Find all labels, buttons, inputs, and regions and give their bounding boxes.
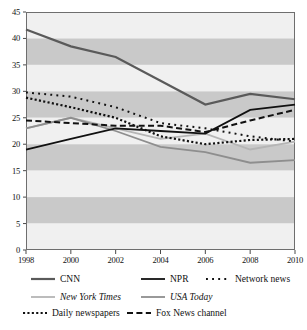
legend-swatch-network-news bbox=[205, 273, 231, 285]
plot-area bbox=[0, 0, 307, 262]
legend-swatch-fox-news-channel bbox=[126, 307, 152, 319]
legend-label-network-news: Network news bbox=[235, 274, 290, 284]
y-tick-label: 45 bbox=[2, 8, 20, 17]
x-tick-label: 2002 bbox=[102, 256, 130, 265]
legend-swatch-npr bbox=[140, 273, 166, 285]
x-tick-marks bbox=[26, 250, 295, 254]
legend-item-network-news[interactable]: Network news bbox=[205, 272, 290, 286]
y-tick-label: 5 bbox=[2, 220, 20, 229]
legend-label-daily-newspapers: Daily newspapers bbox=[52, 308, 120, 318]
y-tick-marks bbox=[23, 12, 26, 250]
legend-item-cnn[interactable]: CNN bbox=[30, 272, 80, 286]
band bbox=[26, 197, 295, 223]
legend-item-usa-today[interactable]: USA Today bbox=[140, 290, 213, 304]
band bbox=[26, 224, 295, 250]
chart-legend: CNNNPRNetwork newsNew York TimesUSA Toda… bbox=[0, 272, 307, 330]
y-tick-label: 25 bbox=[2, 114, 20, 123]
legend-label-fox-news-channel: Fox News channel bbox=[156, 308, 227, 318]
legend-label-cnn: CNN bbox=[60, 274, 80, 284]
band bbox=[26, 12, 295, 38]
legend-swatch-cnn bbox=[30, 273, 56, 285]
x-tick-label: 2000 bbox=[57, 256, 85, 265]
y-tick-label: 20 bbox=[2, 140, 20, 149]
legend-item-new-york-times[interactable]: New York Times bbox=[30, 290, 121, 304]
y-tick-label: 35 bbox=[2, 61, 20, 70]
y-tick-label: 40 bbox=[2, 34, 20, 43]
band bbox=[26, 38, 295, 64]
x-tick-label: 2008 bbox=[236, 256, 264, 265]
x-tick-label: 1998 bbox=[12, 256, 40, 265]
legend-item-fox-news-channel[interactable]: Fox News channel bbox=[126, 306, 227, 320]
y-tick-label: 30 bbox=[2, 87, 20, 96]
legend-label-usa-today: USA Today bbox=[170, 292, 213, 302]
legend-label-new-york-times: New York Times bbox=[60, 292, 121, 302]
legend-item-daily-newspapers[interactable]: Daily newspapers bbox=[22, 306, 120, 320]
legend-swatch-daily-newspapers bbox=[22, 307, 48, 319]
legend-item-npr[interactable]: NPR bbox=[140, 272, 188, 286]
legend-swatch-new-york-times bbox=[30, 291, 56, 303]
y-tick-label: 10 bbox=[2, 193, 20, 202]
band bbox=[26, 65, 295, 91]
y-tick-label: 0 bbox=[2, 246, 20, 255]
x-tick-label: 2006 bbox=[191, 256, 219, 265]
x-tick-label: 2004 bbox=[147, 256, 175, 265]
legend-label-npr: NPR bbox=[170, 274, 188, 284]
legend-swatch-usa-today bbox=[140, 291, 166, 303]
y-tick-label: 15 bbox=[2, 167, 20, 176]
line-chart: 454035302520151050 199820002002200420062… bbox=[0, 0, 307, 262]
band bbox=[26, 171, 295, 197]
x-tick-label: 2010 bbox=[281, 256, 307, 265]
chart-figure: 454035302520151050 199820002002200420062… bbox=[0, 0, 307, 330]
